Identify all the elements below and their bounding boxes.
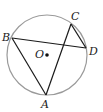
label-b: B <box>1 31 10 44</box>
segment-ac <box>46 24 71 95</box>
label-c: C <box>71 10 80 23</box>
label-o: O <box>35 48 44 61</box>
label-a: A <box>40 98 49 111</box>
circle-diagram: A B C D O <box>0 0 103 112</box>
center-dot <box>45 53 49 57</box>
label-d: D <box>88 45 98 58</box>
segment-ba <box>12 38 46 95</box>
segment-cd <box>71 24 86 48</box>
segment-bd <box>12 38 86 48</box>
